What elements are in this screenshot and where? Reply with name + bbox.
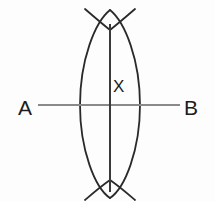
construction-drawing xyxy=(0,0,215,202)
label-point-a: A xyxy=(18,97,32,118)
geometry-figure: A B X xyxy=(0,0,215,202)
label-point-b: B xyxy=(184,97,198,118)
label-point-x: X xyxy=(113,78,124,95)
